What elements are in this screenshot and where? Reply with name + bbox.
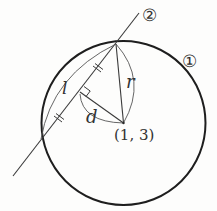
chord-length-label: l <box>62 80 67 97</box>
geometry-svg <box>0 0 217 211</box>
distance-label: d <box>86 108 98 126</box>
center-label: (1, 3) <box>114 128 154 143</box>
radius-label: r <box>126 73 135 91</box>
diagram-canvas: ② ① l r d (1, 3) <box>0 0 217 211</box>
line-2-label: ② <box>142 7 157 24</box>
radius-segment <box>116 44 124 123</box>
line-2 <box>13 13 139 176</box>
circle-1-label: ① <box>182 53 197 70</box>
center-point <box>122 122 124 124</box>
